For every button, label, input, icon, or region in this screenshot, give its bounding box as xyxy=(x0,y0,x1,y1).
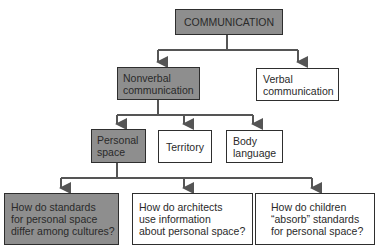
node-label: Personal space xyxy=(97,134,138,158)
node-label: How do children “absorb” standards for p… xyxy=(271,201,363,237)
node-question-cultures: How do standards for personal space diff… xyxy=(4,193,119,245)
node-verbal-communication: Verbal communication xyxy=(256,68,339,101)
node-communication: COMMUNICATION xyxy=(175,9,283,35)
node-territory: Territory xyxy=(158,130,212,163)
communication-hierarchy-diagram: COMMUNICATION Nonverbal communication Ve… xyxy=(0,0,379,247)
node-label: Territory xyxy=(166,141,204,153)
node-label: Verbal communication xyxy=(263,73,334,97)
node-question-children: How do children “absorb” standards for p… xyxy=(255,193,375,245)
node-nonverbal-communication: Nonverbal communication xyxy=(117,67,200,100)
node-label: How do architects use information about … xyxy=(139,201,245,237)
node-body-language: Body language xyxy=(226,130,283,163)
node-label: Nonverbal communication xyxy=(123,72,194,96)
node-label: How do standards for personal space diff… xyxy=(11,201,115,237)
node-question-architects: How do architects use information about … xyxy=(132,193,253,245)
node-label: Body language xyxy=(233,135,276,159)
node-label: COMMUNICATION xyxy=(184,16,274,28)
node-personal-space: Personal space xyxy=(91,129,146,163)
